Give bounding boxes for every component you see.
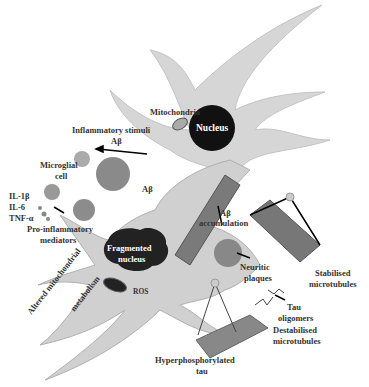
label-il6: IL-6 [9,202,25,212]
label-hyperphosphorylated: Hyperphosphorylated [155,355,235,365]
label-tnfa: TNF-α [9,213,34,223]
label-plaques: plaques [244,273,272,283]
label-tau-hyper: tau [196,366,208,376]
stabilised-microtubules [250,200,320,262]
label-abeta-stimuli: Aβ [111,136,122,146]
plaque [96,157,130,191]
label-stabilised-mt: microtubules [309,279,357,289]
label-pro-inflammatory: Pro-inflammatory [27,224,93,234]
label-mitochondria: Mitochondria [150,107,200,117]
label-accumulation: accumulation [199,218,248,228]
label-oligomers: oligomers [278,313,313,323]
label-destabilised-mt: microtubules [273,336,321,346]
label-il1b: IL-1β [9,191,30,201]
label-destabilised: Destabilised [273,325,317,335]
label-fragmented: Fragmented [107,243,151,253]
microglia [44,184,60,200]
label-inflammatory-stimuli: Inflammatory stimuli [72,125,150,135]
label-abeta: Aβ [142,184,153,194]
label-abeta-accum: Aβ [220,208,231,218]
label-cell: cell [55,171,67,181]
label-stabilised: Stabilised [315,268,350,278]
plaque [73,199,95,221]
label-fragmented-nucleus: nucleus [118,254,145,264]
label-tau: Tau [287,302,301,312]
label-mediators: mediators [40,235,76,245]
label-nucleus: Nucleus [196,123,228,133]
label-ros: ROS [133,287,148,297]
label-neuritic: Neuritic [240,262,270,272]
label-microglial: Microglial [40,160,78,170]
